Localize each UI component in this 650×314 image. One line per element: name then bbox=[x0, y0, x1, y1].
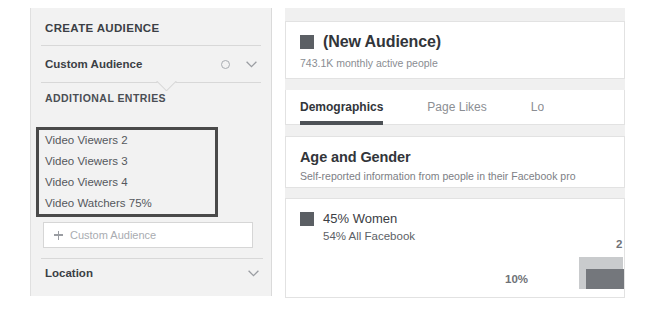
chart-legend-secondary: 54% All Facebook bbox=[323, 230, 415, 242]
tab-demographics[interactable]: Demographics bbox=[300, 90, 383, 114]
additional-entries-title: ADDITIONAL ENTRIES bbox=[31, 83, 271, 104]
tab-location[interactable]: Lo bbox=[531, 90, 544, 114]
color-swatch-icon bbox=[300, 212, 314, 226]
sidebar-row-location-label: Location bbox=[45, 267, 93, 279]
chart-tick-label: 10% bbox=[505, 273, 528, 285]
audience-title-row: (New Audience) bbox=[300, 33, 624, 51]
list-item[interactable]: Video Viewers 2 bbox=[43, 130, 223, 151]
sidebar-row-icons bbox=[221, 60, 257, 69]
additional-entries-list: Video Viewers 2 Video Viewers 3 Video Vi… bbox=[43, 130, 223, 214]
chart-legend-primary: 45% Women bbox=[323, 211, 397, 226]
list-item[interactable]: Video Viewers 4 bbox=[43, 172, 223, 193]
chart-bar-group bbox=[579, 257, 625, 289]
audience-insights-panel: (New Audience) 743.1K monthly active peo… bbox=[285, 8, 625, 298]
divider bbox=[41, 258, 263, 259]
gear-icon[interactable] bbox=[221, 60, 230, 69]
custom-audience-input-placeholder: Custom Audience bbox=[70, 229, 156, 241]
chart-bar-women bbox=[586, 269, 625, 289]
tab-bar: Demographics Page Likes Lo bbox=[285, 90, 625, 125]
color-swatch-icon bbox=[300, 35, 314, 49]
age-and-gender-header: Age and Gender Self-reported information… bbox=[285, 136, 625, 188]
sidebar-row-location[interactable]: Location bbox=[31, 267, 273, 279]
screen: CREATE AUDIENCE Custom Audience ADDITION… bbox=[0, 0, 650, 314]
section-title: Age and Gender bbox=[300, 149, 624, 165]
chart-tick-label: 2 bbox=[616, 238, 622, 250]
caret-notch-icon bbox=[154, 81, 180, 91]
audience-subtitle: 743.1K monthly active people bbox=[300, 57, 624, 69]
sidebar-row-custom-audience-label: Custom Audience bbox=[45, 58, 142, 70]
audience-title: (New Audience) bbox=[323, 33, 441, 51]
chart-legend-row: 45% Women bbox=[300, 211, 415, 226]
custom-audience-input[interactable]: Custom Audience bbox=[43, 222, 253, 248]
chevron-down-icon[interactable] bbox=[246, 61, 257, 68]
list-item[interactable]: Video Watchers 75% bbox=[43, 193, 223, 214]
divider-with-notch bbox=[41, 82, 261, 83]
page-title: CREATE AUDIENCE bbox=[31, 8, 271, 34]
tab-page-likes[interactable]: Page Likes bbox=[427, 90, 486, 114]
chevron-down-icon[interactable] bbox=[248, 270, 259, 277]
audience-header: (New Audience) 743.1K monthly active peo… bbox=[285, 21, 625, 79]
chart-legend: 45% Women 54% All Facebook bbox=[300, 211, 415, 242]
section-subtitle: Self-reported information from people in… bbox=[300, 170, 626, 182]
age-and-gender-chart: 45% Women 54% All Facebook 10% 2 bbox=[285, 198, 625, 298]
sidebar-row-custom-audience[interactable]: Custom Audience bbox=[31, 46, 271, 82]
list-item[interactable]: Video Viewers 3 bbox=[43, 151, 223, 172]
plus-icon bbox=[54, 231, 63, 240]
tabs: Demographics Page Likes Lo bbox=[286, 90, 624, 124]
create-audience-sidebar: CREATE AUDIENCE Custom Audience ADDITION… bbox=[30, 8, 272, 296]
